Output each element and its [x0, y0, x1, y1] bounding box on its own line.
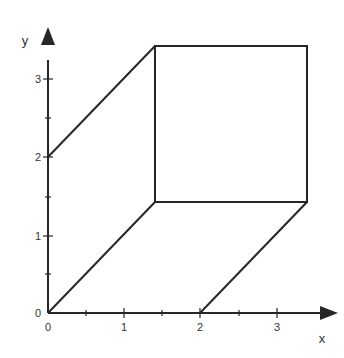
- segment-origin: [48, 202, 155, 313]
- y-tick-label-1: 1: [35, 230, 41, 242]
- diagram-canvas: 0 1 2 3 0 1 2 3 x y: [0, 0, 344, 358]
- x-tick-label-3: 3: [274, 321, 280, 333]
- x-tick-label-2: 2: [197, 321, 203, 333]
- x-axis-label: x: [319, 331, 326, 346]
- y-axis-arrow-icon: [41, 27, 55, 45]
- y-tick-label-3: 3: [35, 73, 41, 85]
- square: [155, 46, 307, 202]
- y-tick-label-2: 2: [35, 151, 41, 163]
- segment-y2: [48, 46, 155, 157]
- x-tick-label-1: 1: [121, 321, 127, 333]
- segment-x2: [200, 202, 307, 313]
- x-tick-label-0: 0: [45, 321, 51, 333]
- y-axis-label: y: [22, 33, 29, 48]
- x-axis-arrow-icon: [320, 306, 338, 320]
- y-tick-label-0: 0: [35, 307, 41, 319]
- figure: [48, 46, 307, 313]
